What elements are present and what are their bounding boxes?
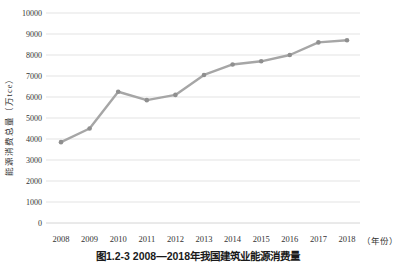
x-tick-label: 2008 (53, 234, 70, 244)
y-tick-label: 2000 (26, 177, 42, 186)
data-line (61, 40, 347, 142)
y-tick-label: 1000 (26, 198, 42, 207)
data-point-marker (259, 59, 264, 64)
figure-caption: 图1.2-3 2008—2018年我国建筑业能源消费量 (0, 250, 396, 263)
data-point-marker (116, 89, 121, 94)
x-tick-label: 2018 (339, 234, 356, 244)
data-point-marker (145, 98, 150, 103)
data-point-marker (230, 62, 235, 67)
y-tick-label: 8000 (26, 51, 42, 60)
y-tick-label: 10000 (22, 9, 42, 18)
x-tick-label: 2014 (224, 234, 242, 244)
y-tick-label: 9000 (26, 30, 42, 39)
y-tick-label: 5000 (26, 114, 42, 123)
x-tick-label: 2013 (196, 234, 213, 244)
x-axis-unit-label: （年份） (362, 234, 396, 246)
data-point-marker (87, 126, 92, 131)
x-tick-label: 2017 (310, 234, 327, 244)
data-point-marker (316, 40, 321, 45)
data-point-marker (345, 38, 350, 43)
y-tick-label: 6000 (26, 93, 42, 102)
data-point-marker (173, 93, 178, 98)
x-tick-label: 2009 (81, 234, 98, 244)
x-tick-label: 2016 (281, 234, 298, 244)
x-tick-label: 2011 (138, 234, 155, 244)
x-tick-label: 2012 (167, 234, 184, 244)
x-tick-label: 2010 (110, 234, 127, 244)
data-point-marker (59, 140, 64, 145)
y-tick-label: 7000 (26, 72, 42, 81)
y-axis-title: 能源消费总量（万tce） (2, 50, 16, 200)
y-tick-label: 3000 (26, 156, 42, 165)
data-point-marker (288, 53, 293, 58)
y-tick-label: 0 (38, 219, 42, 228)
chart-svg: 0100020003000400050006000700080009000100… (0, 0, 396, 248)
x-tick-label: 2015 (253, 234, 270, 244)
y-tick-label: 4000 (26, 135, 42, 144)
data-point-marker (202, 73, 207, 78)
